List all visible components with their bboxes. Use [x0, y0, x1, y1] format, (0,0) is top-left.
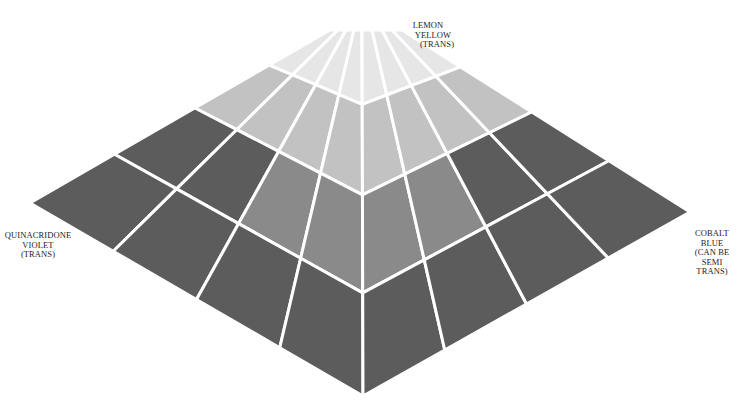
pyramid-tiles	[30, 30, 690, 396]
label-line: (TRANS)	[398, 40, 458, 50]
label-cobalt-blue: COBALT BLUE (CAN BE SEMI TRANS)	[690, 229, 734, 277]
label-lemon-yellow: LEMON YELLOW (TRANS)	[398, 21, 458, 50]
label-quinacridone-violet: QUINACRIDONE VIOLET (TRANS)	[2, 231, 74, 260]
label-line: TRANS)	[690, 267, 734, 277]
label-line: (TRANS)	[2, 250, 74, 260]
color-pyramid-diagram	[0, 0, 740, 411]
